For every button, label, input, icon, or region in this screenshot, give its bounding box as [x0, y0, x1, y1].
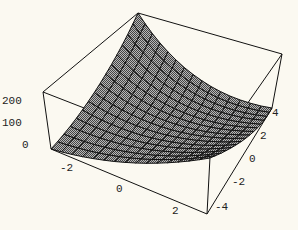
y-tick: -2 — [232, 176, 245, 188]
y-tick: 2 — [260, 130, 267, 142]
x-tick: 0 — [116, 183, 123, 195]
y-tick: 4 — [272, 107, 279, 119]
z-axis-ticks: 200 100 0 — [2, 95, 29, 151]
x-axis-ticks: -2 0 2 — [60, 162, 179, 217]
surface-mesh — [51, 13, 272, 163]
surface-plot-3d: 200 100 0 -2 0 2 -4 -2 0 2 4 — [0, 0, 298, 230]
y-tick: 0 — [249, 153, 256, 165]
z-tick: 200 — [2, 95, 22, 107]
z-tick: 100 — [2, 117, 22, 129]
x-tick: 2 — [172, 205, 179, 217]
y-tick: -4 — [215, 201, 229, 213]
z-tick: 0 — [22, 139, 29, 151]
x-tick: -2 — [60, 162, 73, 174]
